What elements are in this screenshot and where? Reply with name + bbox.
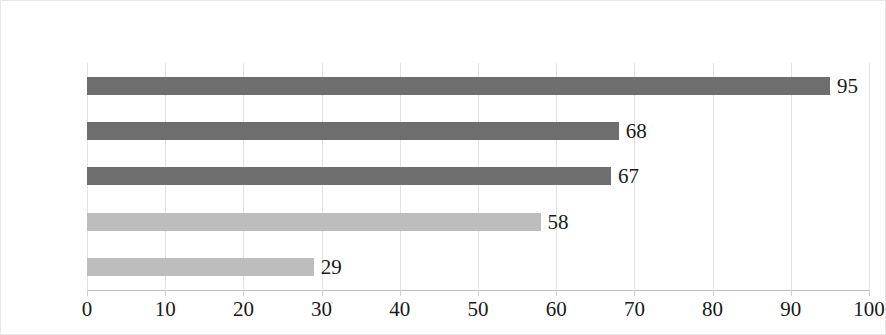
tick-mark bbox=[322, 290, 323, 296]
tick-label: 50 bbox=[448, 297, 508, 322]
bar-value-label: 68 bbox=[619, 119, 647, 144]
bar bbox=[87, 258, 314, 276]
tick-mark bbox=[243, 290, 244, 296]
bar-row: 家人95 bbox=[87, 63, 869, 108]
bar bbox=[87, 213, 541, 231]
plot-area: 家人95同事68邻居67上海人58陌生人29 bbox=[87, 63, 869, 290]
tick-label: 90 bbox=[761, 297, 821, 322]
tick-mark bbox=[713, 290, 714, 296]
tick-mark bbox=[634, 290, 635, 296]
bar-row: 陌生人29 bbox=[87, 245, 869, 290]
tick-label: 40 bbox=[370, 297, 430, 322]
tick-mark bbox=[791, 290, 792, 296]
bar-value-label: 58 bbox=[541, 209, 569, 234]
tick-mark bbox=[556, 290, 557, 296]
tick-mark bbox=[87, 290, 88, 296]
tick-label: 0 bbox=[57, 297, 117, 322]
bar bbox=[87, 122, 619, 140]
tick-label: 10 bbox=[135, 297, 195, 322]
gridline bbox=[869, 63, 870, 290]
tick-label: 100 bbox=[839, 297, 886, 322]
bar bbox=[87, 77, 830, 95]
tick-mark bbox=[478, 290, 479, 296]
bar-value-label: 95 bbox=[830, 73, 858, 98]
tick-label: 60 bbox=[526, 297, 586, 322]
tick-label: 80 bbox=[683, 297, 743, 322]
tick-mark bbox=[400, 290, 401, 296]
bar-row: 上海人58 bbox=[87, 199, 869, 244]
bar-row: 邻居67 bbox=[87, 154, 869, 199]
bar-row: 同事68 bbox=[87, 108, 869, 153]
tick-label: 70 bbox=[604, 297, 664, 322]
bar bbox=[87, 167, 611, 185]
tick-label: 30 bbox=[292, 297, 352, 322]
tick-label: 20 bbox=[213, 297, 273, 322]
bar-chart: 家人95同事68邻居67上海人58陌生人29 01020304050607080… bbox=[0, 0, 886, 335]
tick-mark bbox=[165, 290, 166, 296]
bar-value-label: 67 bbox=[611, 164, 639, 189]
tick-mark bbox=[869, 290, 870, 296]
bar-value-label: 29 bbox=[314, 255, 342, 280]
